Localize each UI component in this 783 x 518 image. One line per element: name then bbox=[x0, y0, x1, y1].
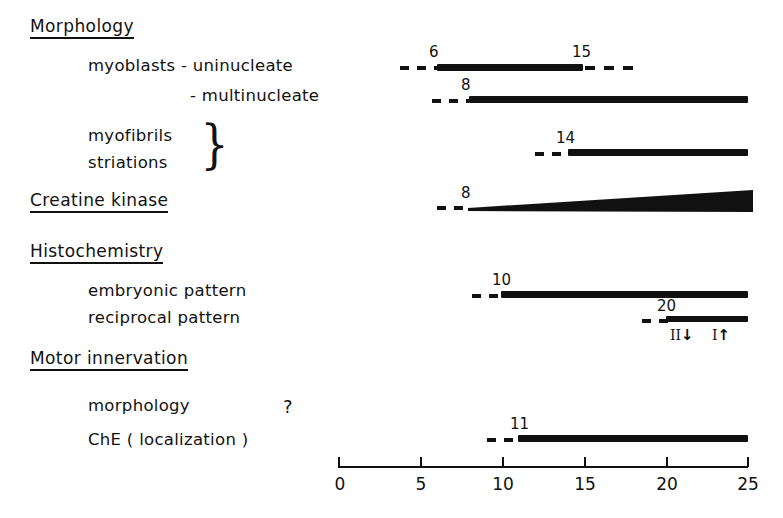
value-label-15: 15 bbox=[572, 45, 591, 60]
axis-tick-20 bbox=[666, 457, 668, 467]
row-label-myoblasts-uninucleate: myoblasts - uninucleate bbox=[88, 58, 293, 75]
wedge-creatine-kinase-activity bbox=[468, 186, 753, 230]
bar-che-localization bbox=[518, 435, 748, 442]
axis-tick-10 bbox=[502, 457, 504, 467]
axis-tick-label-25: 25 bbox=[737, 476, 759, 493]
fibre-type-II-down-arrow-icon: ↓ bbox=[681, 326, 694, 344]
value-label-8-multinucleate: 8 bbox=[461, 78, 471, 93]
axis-tick-label-0: 0 bbox=[335, 476, 346, 493]
section-heading-histochemistry: Histochemistry bbox=[30, 243, 163, 264]
bar-myoblasts-multinucleate bbox=[469, 96, 748, 103]
axis-baseline bbox=[338, 466, 748, 468]
axis-tick-5 bbox=[420, 457, 422, 467]
lead-in-dashes-myofibrils bbox=[535, 152, 568, 156]
section-heading-morphology: Morphology bbox=[30, 18, 134, 39]
axis-tick-15 bbox=[584, 457, 586, 467]
axis-tick-label-20: 20 bbox=[656, 476, 678, 493]
lead-in-dashes-creatine-kinase bbox=[437, 206, 469, 210]
axis-tick-label-15: 15 bbox=[574, 476, 596, 493]
bar-embryonic-pattern bbox=[501, 291, 748, 298]
value-label-14: 14 bbox=[556, 131, 575, 146]
row-label-striations: striations bbox=[88, 155, 168, 172]
value-label-11: 11 bbox=[510, 417, 529, 432]
brace-myofibrils-striations: } bbox=[200, 118, 228, 170]
lead-in-dashes-embryonic-pattern bbox=[472, 294, 501, 298]
lead-out-dashes-uninucleate bbox=[585, 66, 640, 70]
lead-in-dashes-reciprocal-pattern bbox=[642, 319, 669, 323]
axis-tick-0 bbox=[338, 457, 340, 467]
row-label-embryonic-pattern: embryonic pattern bbox=[88, 283, 246, 300]
fibre-type-annotation-I: I↑ bbox=[712, 328, 730, 343]
lead-in-dashes-che bbox=[487, 438, 518, 442]
row-label-multinucleate: - multinucleate bbox=[190, 88, 319, 105]
row-label-che-localization: ChE ( localization ) bbox=[88, 432, 248, 449]
axis-tick-label-10: 10 bbox=[492, 476, 514, 493]
section-heading-creatine-kinase: Creatine kinase bbox=[30, 192, 168, 213]
value-label-6: 6 bbox=[429, 45, 439, 60]
value-label-10: 10 bbox=[492, 273, 511, 288]
figure-timeline-chart: Morphology myoblasts - uninucleate - mul… bbox=[0, 0, 783, 518]
lead-in-dashes-multinucleate bbox=[432, 99, 469, 103]
question-mark-motor-morphology: ? bbox=[283, 398, 293, 416]
axis-tick-25 bbox=[747, 457, 749, 467]
section-heading-motor-innervation: Motor innervation bbox=[30, 350, 188, 371]
row-label-reciprocal-pattern: reciprocal pattern bbox=[88, 310, 240, 327]
lead-in-dashes-uninucleate bbox=[400, 66, 437, 70]
bar-myoblasts-uninucleate bbox=[437, 64, 583, 71]
axis-tick-label-5: 5 bbox=[416, 476, 427, 493]
row-label-myofibrils: myofibrils bbox=[88, 128, 172, 145]
fibre-type-II-label: II bbox=[670, 327, 681, 343]
bar-reciprocal-pattern bbox=[666, 316, 748, 322]
fibre-type-I-up-arrow-icon: ↑ bbox=[718, 326, 731, 344]
row-label-motor-morphology: morphology bbox=[88, 398, 190, 415]
fibre-type-annotation-II: II↓ bbox=[670, 328, 694, 343]
value-label-20: 20 bbox=[657, 299, 676, 314]
bar-myofibrils-striations bbox=[568, 149, 748, 156]
